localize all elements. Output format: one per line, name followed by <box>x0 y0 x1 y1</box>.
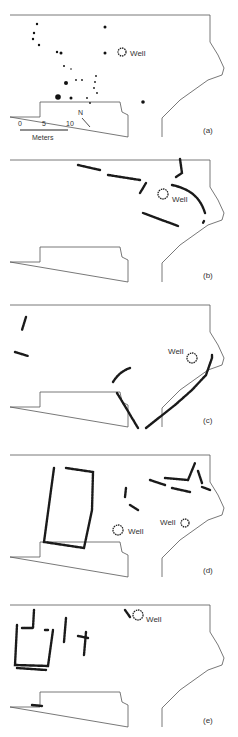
well-icon <box>113 525 123 535</box>
wall-feature <box>64 618 66 642</box>
well-label: Well <box>168 347 184 356</box>
well-label: Well <box>172 195 188 204</box>
posthole-point <box>81 79 83 81</box>
wall-feature <box>130 505 138 510</box>
posthole-point <box>104 52 107 55</box>
well-label: Well <box>130 49 146 58</box>
wall-feature <box>113 368 130 382</box>
wall-feature <box>22 317 26 330</box>
well-icon <box>187 353 197 363</box>
panel-label: (c) <box>203 416 213 425</box>
posthole-point <box>96 92 98 94</box>
posthole-point <box>70 97 73 100</box>
wall-feature <box>22 610 34 628</box>
posthole-point <box>60 52 63 55</box>
well-icon <box>118 48 126 56</box>
site-outline <box>10 15 224 137</box>
wall-feature <box>15 352 28 356</box>
posthole-point <box>70 68 72 70</box>
wall-feature <box>32 705 42 706</box>
scale-unit: Meters <box>32 134 54 141</box>
wall-feature <box>44 468 93 548</box>
site-outline <box>10 305 224 427</box>
well-label: Well <box>128 527 144 536</box>
posthole-point <box>36 23 38 25</box>
well-label: Well <box>146 615 162 624</box>
wall-feature <box>125 610 130 617</box>
panel-label: (e) <box>203 716 213 725</box>
wall-feature <box>176 159 182 177</box>
posthole-point <box>75 79 77 81</box>
wall-feature <box>108 175 140 180</box>
scale-tick: 5 <box>42 120 46 127</box>
posthole-point <box>33 32 35 34</box>
panel-c: Well(c) <box>0 290 238 440</box>
north-label: N <box>78 109 83 116</box>
well-icon <box>181 519 189 527</box>
wall-feature <box>165 463 195 480</box>
panel-d: WellWell(d) <box>0 440 238 590</box>
scale-tick: 10 <box>66 120 74 127</box>
well-icon <box>133 610 143 620</box>
posthole-point <box>93 87 95 89</box>
posthole-point <box>56 51 58 53</box>
posthole-point <box>104 26 107 29</box>
posthole-point <box>95 75 97 77</box>
wall-feature <box>172 488 190 492</box>
wall-feature <box>202 487 210 490</box>
wall-feature <box>84 632 86 655</box>
posthole-point <box>89 102 91 104</box>
posthole-point <box>64 81 68 85</box>
panel-b: Well(b) <box>0 145 238 295</box>
wall-feature <box>117 393 138 428</box>
panel-label: (b) <box>203 271 213 280</box>
posthole-point <box>94 81 96 83</box>
panel-a: Well(a)0510MetersN <box>0 0 238 150</box>
wall-feature <box>78 165 100 170</box>
panel-label: (d) <box>203 566 213 575</box>
posthole-point <box>86 97 88 99</box>
wall-feature <box>203 221 204 223</box>
posthole-point <box>38 44 40 46</box>
wall-feature <box>125 488 126 497</box>
posthole-point <box>55 94 61 100</box>
scale-tick: 0 <box>18 120 22 127</box>
wall-feature <box>198 471 202 483</box>
posthole-point <box>63 65 65 67</box>
wall-feature <box>143 213 178 226</box>
panel-label: (a) <box>203 126 213 135</box>
posthole-point <box>141 100 145 104</box>
site-outline <box>10 160 224 282</box>
wall-feature <box>140 183 146 193</box>
panel-e: Well(e) <box>0 590 238 737</box>
well-icon <box>158 189 168 199</box>
posthole-point <box>32 38 34 40</box>
north-arrow-icon <box>82 118 90 127</box>
wall-feature <box>17 668 46 670</box>
wall-feature <box>150 480 165 485</box>
well-label: Well <box>160 518 176 527</box>
